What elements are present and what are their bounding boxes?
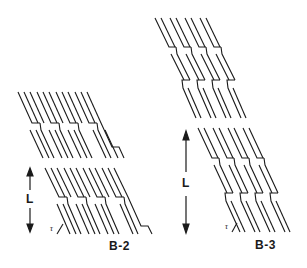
- panel-b3-angle-label: τ: [225, 222, 228, 231]
- panel-b3-lower-block: [198, 128, 290, 232]
- panel-b2: [18, 92, 152, 234]
- panel-b2-angle-label: τ: [50, 224, 53, 233]
- panel-b2-upper-block: [18, 92, 124, 158]
- tau-angle-line: [232, 223, 237, 232]
- panel-b3-upper-block: [155, 18, 246, 118]
- panel-b3-dimension-label: L: [182, 176, 189, 190]
- panel-b2-label: B-2: [109, 239, 130, 253]
- panel-b2-dimension-label: L: [26, 192, 33, 206]
- tau-angle-line: [57, 224, 63, 234]
- panel-b3-label: B-3: [255, 238, 276, 252]
- panel-b3: [155, 18, 290, 233]
- panel-b2-lower-block: [45, 168, 152, 234]
- diagram-canvas: L τ B-2 L τ B-3: [0, 0, 307, 268]
- lattice-diagram: [0, 0, 307, 268]
